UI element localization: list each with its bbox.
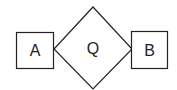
relationship-q[interactable]: Q — [54, 7, 132, 89]
relationship-q-label: Q — [87, 40, 99, 57]
entity-b-label: B — [144, 42, 155, 59]
entity-b[interactable]: B — [132, 32, 168, 69]
er-diagram-canvas: A Q B — [0, 0, 177, 90]
entity-a-label: A — [30, 42, 41, 59]
entity-a[interactable]: A — [17, 33, 54, 69]
